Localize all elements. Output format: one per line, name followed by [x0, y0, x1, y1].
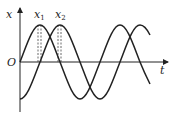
t-axis-label: t: [160, 64, 165, 77]
diagram-canvas: x t O x1 x2: [0, 0, 174, 122]
origin-label: O: [7, 56, 16, 69]
y-axis-label: x: [6, 8, 13, 21]
x1-label: x1: [34, 8, 45, 22]
x2-label: x2: [55, 8, 66, 22]
